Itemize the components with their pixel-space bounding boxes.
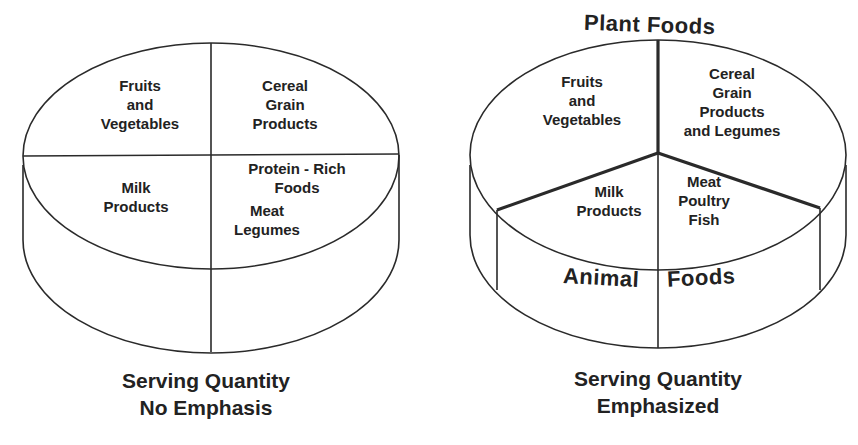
caption-line: Emphasized	[548, 392, 768, 419]
right-segment-milk: Milk Products	[566, 182, 652, 220]
label-line: Vegetables	[80, 114, 200, 133]
label-line: Fruits	[80, 76, 200, 95]
right-segment-meat-poultry-fish: Meat Poultry Fish	[666, 172, 742, 229]
animal-label: Animal	[562, 263, 640, 293]
label-line: Legumes	[222, 220, 312, 239]
label-line: Cereal	[230, 76, 340, 95]
label-line: Fish	[666, 210, 742, 229]
label-line: Products	[86, 197, 186, 216]
label-line: Meat	[666, 172, 742, 191]
label-line: and	[522, 91, 642, 110]
left-segment-protein-rich: Protein - Rich Foods	[232, 159, 362, 197]
label-line: Vegetables	[522, 110, 642, 129]
label-line: Milk	[566, 182, 652, 201]
right-pie-caption: Serving Quantity Emphasized	[548, 365, 768, 419]
label-line: Meat	[222, 201, 312, 220]
label-line: Protein - Rich	[232, 159, 362, 178]
label-line: Grain	[672, 83, 792, 102]
label-line: Fruits	[522, 72, 642, 91]
right-segment-cereal-grain-legumes: Cereal Grain Products and Legumes	[672, 64, 792, 140]
label-line: and Legumes	[672, 121, 792, 140]
label-line: Milk	[86, 178, 186, 197]
label-line: Grain	[230, 95, 340, 114]
label-line: and	[80, 95, 200, 114]
label-line: Foods	[232, 178, 362, 197]
label-line: Products	[566, 201, 652, 220]
left-pie-caption: Serving Quantity No Emphasis	[96, 367, 316, 421]
label-line: Cereal	[672, 64, 792, 83]
caption-line: Serving Quantity	[96, 367, 316, 394]
label-line: Poultry	[666, 191, 742, 210]
caption-line: No Emphasis	[96, 394, 316, 421]
plant-foods-label: Plant Foods	[584, 10, 716, 41]
left-segment-cereal-grain: Cereal Grain Products	[230, 76, 340, 133]
caption-line: Serving Quantity	[548, 365, 768, 392]
foods-label: Foods	[666, 263, 736, 293]
left-segment-meat-legumes: Meat Legumes	[222, 201, 312, 239]
left-segment-fruits-vegetables: Fruits and Vegetables	[80, 76, 200, 133]
label-line: Products	[672, 102, 792, 121]
label-line: Products	[230, 114, 340, 133]
left-segment-milk: Milk Products	[86, 178, 186, 216]
right-segment-fruits-vegetables: Fruits and Vegetables	[522, 72, 642, 129]
